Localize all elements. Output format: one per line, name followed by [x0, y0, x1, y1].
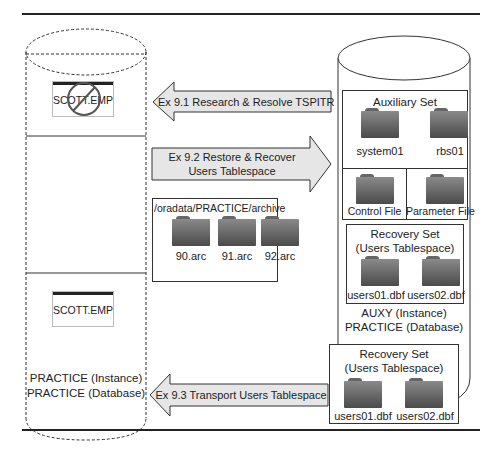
- ex-9-2-label-line1: Ex 9.2 Restore & Recover: [152, 151, 312, 164]
- aux-file: rbs01: [420, 145, 480, 158]
- folder-icon: [356, 174, 394, 204]
- folder-icon: [344, 378, 382, 408]
- scott-emp-dropped-table: SCOTT.EMP: [52, 81, 114, 117]
- archive-file: 92.arc: [255, 250, 305, 263]
- control-file-label: Control File: [342, 205, 407, 218]
- transport-set-title: Recovery Set: [329, 348, 459, 361]
- folder-icon: [261, 216, 299, 246]
- aux-database-label: PRACTICE (Database): [338, 321, 470, 334]
- ex-9-2-label-line2: Users Tablespace: [152, 165, 312, 178]
- folder-icon: [430, 108, 468, 138]
- folder-icon: [172, 216, 210, 246]
- archive-path: /oradata/PRACTICE/archive: [154, 202, 276, 215]
- aux-file: system01: [350, 145, 410, 158]
- table-title-bar: [53, 292, 113, 295]
- folder-icon: [422, 256, 460, 286]
- left-instance-label: PRACTICE (Instance): [26, 372, 146, 385]
- left-database-label: PRACTICE (Database): [26, 387, 146, 400]
- transport-file: users02.dbf: [393, 410, 457, 423]
- parameter-file-label: Parameter File: [406, 205, 468, 218]
- recovery-file: users01.dbf: [346, 289, 406, 302]
- table-label: SCOTT.EMP: [53, 304, 113, 316]
- aux-instance-label: AUXY (Instance): [338, 307, 470, 320]
- folder-icon: [426, 174, 464, 204]
- table-title-bar: [53, 82, 113, 85]
- arrow-ex-9-2: [152, 136, 331, 192]
- folder-icon: [218, 216, 256, 246]
- recovery-set-subtitle: (Users Tablespace): [346, 242, 464, 255]
- folder-icon: [361, 108, 399, 138]
- folder-icon: [361, 256, 399, 286]
- folder-icon: [405, 378, 443, 408]
- scott-emp-table: SCOTT.EMP: [52, 291, 114, 327]
- transport-set-subtitle: (Users Tablespace): [329, 362, 459, 375]
- ex-9-3-label: Ex 9.3 Transport Users Tablespace: [154, 389, 328, 402]
- ex-9-1-label: Ex 9.1 Research & Resolve TSPITR: [158, 96, 328, 109]
- archive-file: 90.arc: [166, 250, 216, 263]
- recovery-set-title: Recovery Set: [346, 228, 464, 241]
- table-label: SCOTT.EMP: [53, 94, 113, 106]
- transport-file: users01.dbf: [331, 410, 395, 423]
- recovery-file: users02.dbf: [406, 289, 466, 302]
